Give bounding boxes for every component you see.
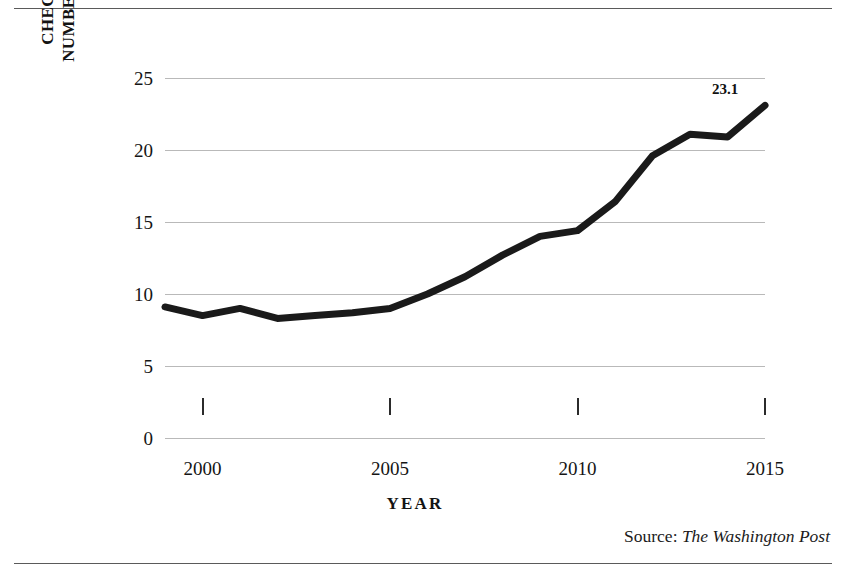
- y-tick-label-25: 25: [134, 69, 153, 88]
- bottom-rule: [14, 563, 832, 564]
- x-tick-label-2015: 2015: [746, 459, 784, 478]
- x-axis-title: YEAR: [165, 494, 665, 514]
- chart-figure: NUMBER OF BACKGROUNDCHECKS (IN MILLIONS)…: [0, 0, 846, 585]
- data-label-23.1: 23.1: [712, 82, 738, 97]
- x-tick-label-2005: 2005: [371, 459, 409, 478]
- plot-area: 0510152025 2000200520102015 23.1: [165, 78, 765, 438]
- source-prefix: Source:: [624, 526, 677, 546]
- x-tick-label-2000: 2000: [184, 459, 222, 478]
- y-tick-label-0: 0: [144, 429, 154, 448]
- source-publication: The Washington Post: [682, 526, 830, 546]
- y-tick-label-15: 15: [134, 213, 153, 232]
- y-axis-title-line-1: CHECKS (IN MILLIONS): [38, 0, 57, 45]
- y-tick-label-20: 20: [134, 141, 153, 160]
- source-credit: Source: The Washington Post: [624, 526, 830, 547]
- top-rule: [14, 8, 832, 9]
- series-polyline: [165, 105, 765, 318]
- gridline-0: [165, 438, 765, 439]
- y-axis-title: NUMBER OF BACKGROUNDCHECKS (IN MILLIONS): [36, 0, 80, 122]
- y-tick-label-5: 5: [144, 357, 154, 376]
- y-tick-label-10: 10: [134, 285, 153, 304]
- x-tick-label-2010: 2010: [559, 459, 597, 478]
- series-line-background-checks: [165, 78, 765, 438]
- y-axis-title-line-0: NUMBER OF BACKGROUND: [59, 0, 78, 62]
